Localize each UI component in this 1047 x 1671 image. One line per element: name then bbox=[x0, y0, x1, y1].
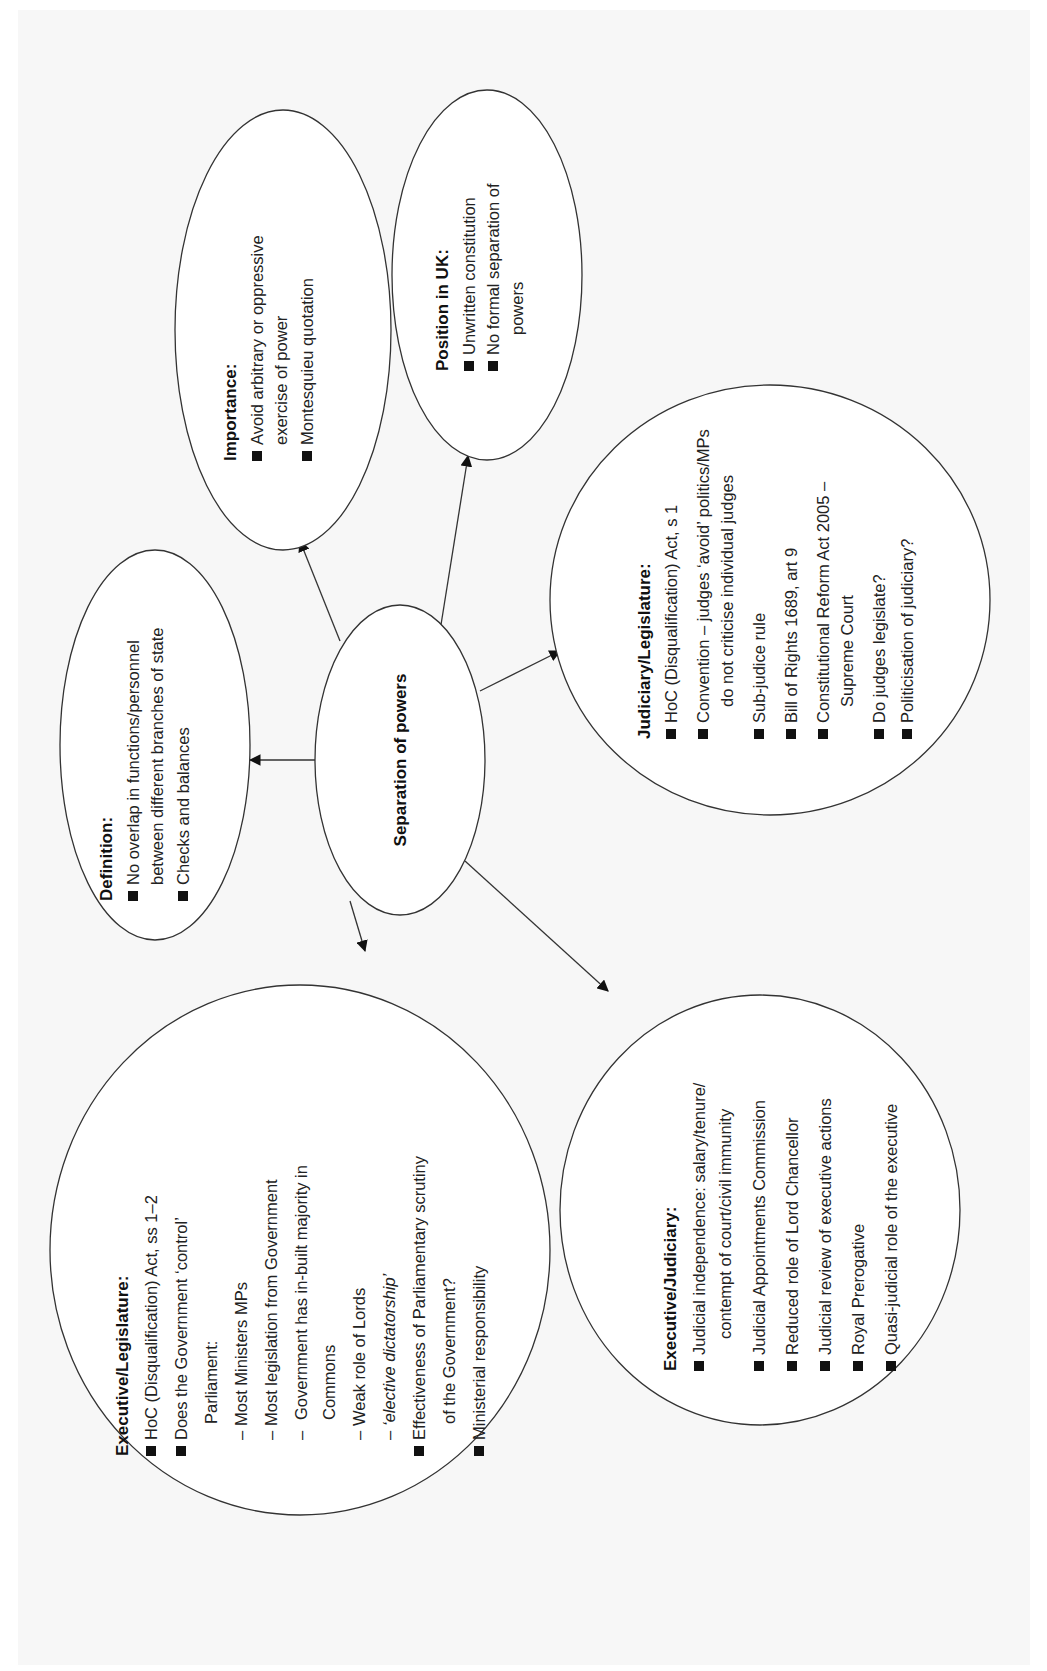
ej-item: Judicial review of executive actions bbox=[816, 1098, 834, 1355]
position-uk-item-cont: powers bbox=[508, 282, 526, 335]
el-item-cont: of the Government? bbox=[440, 1278, 458, 1424]
edge-to-executive-legislature bbox=[350, 901, 365, 951]
bullet-icon bbox=[128, 891, 138, 901]
ej-item: Judicial Appointments Commission bbox=[750, 1100, 768, 1355]
bullet-icon bbox=[464, 361, 474, 371]
executive-judiciary-title: Executive/Judiciary: bbox=[661, 1207, 680, 1371]
edge-to-judiciary-legislature bbox=[480, 651, 560, 691]
bullet-icon bbox=[252, 451, 262, 461]
el-subitem: Most Ministers MPs bbox=[232, 1282, 250, 1426]
node-center: Separation of powers bbox=[315, 605, 485, 915]
bullet-icon bbox=[786, 729, 796, 739]
jl-item: HoC (Disqualification) Act, s 1 bbox=[662, 505, 680, 723]
bullet-icon bbox=[146, 1446, 156, 1456]
importance-item: Montesquieu quotation bbox=[298, 278, 316, 445]
judiciary-legislature-title: Judiciary/Legislature: bbox=[635, 563, 654, 739]
node-definition: Definition: No overlap in functions/pers… bbox=[60, 550, 250, 940]
el-item-cont: Parliament: bbox=[202, 1341, 220, 1424]
dash-icon: – bbox=[380, 1430, 398, 1440]
position-uk-item: Unwritten constitution bbox=[460, 197, 478, 355]
node-executive-judiciary: Executive/Judiciary: Judicial independen… bbox=[560, 995, 960, 1425]
el-subitem: Weak role of Lords bbox=[350, 1288, 368, 1426]
el-subitem: Most legislation from Government bbox=[262, 1179, 280, 1426]
definition-title: Definition: bbox=[97, 817, 116, 901]
jl-item: Do judges legislate? bbox=[870, 574, 888, 723]
edge-to-executive-judiciary bbox=[465, 861, 608, 991]
edge-to-importance bbox=[300, 541, 340, 641]
mind-map-diagram: Definition: No overlap in functions/pers… bbox=[0, 0, 1047, 1671]
center-title: Separation of powers bbox=[391, 674, 410, 847]
bullet-icon bbox=[178, 891, 188, 901]
ej-item-cont: contempt of court/civil immunity bbox=[716, 1108, 734, 1339]
jl-item: Politicisation of judiciary? bbox=[898, 539, 916, 723]
definition-item: Checks and balances bbox=[174, 727, 192, 885]
dash-icon: – bbox=[350, 1430, 368, 1440]
bullet-icon bbox=[874, 729, 884, 739]
el-item: Effectiveness of Parliamentary scrutiny bbox=[410, 1155, 428, 1440]
el-item: Does the Government ‘control’ bbox=[172, 1217, 190, 1440]
importance-item-cont: exercise of power bbox=[272, 315, 290, 445]
bullet-icon bbox=[902, 729, 912, 739]
bullet-icon bbox=[853, 1361, 863, 1371]
ej-item: Reduced role of Lord Chancellor bbox=[783, 1117, 801, 1355]
jl-item: Convention – judges ‘avoid’ politics/MPs bbox=[694, 429, 712, 723]
el-subitem: ‘elective dictatorship’ bbox=[380, 1273, 398, 1426]
ej-item: Judicial independence: salary/tenure/ bbox=[690, 1082, 708, 1355]
el-item: Ministerial responsibility bbox=[470, 1265, 488, 1440]
dash-icon: – bbox=[292, 1430, 310, 1440]
definition-item-cont: between different branches of state bbox=[148, 628, 166, 885]
definition-item: No overlap in functions/personnel bbox=[124, 640, 142, 885]
jl-item: Bill of Rights 1689, art 9 bbox=[782, 548, 800, 723]
bullet-icon bbox=[818, 729, 828, 739]
node-executive-legislature: Executive/Legislature: HoC (Disqualifica… bbox=[50, 985, 550, 1515]
dash-icon: – bbox=[262, 1430, 280, 1440]
bullet-icon bbox=[666, 729, 676, 739]
jl-item-cont: do not criticise individual judges bbox=[718, 475, 736, 707]
bullet-icon bbox=[474, 1446, 484, 1456]
bullet-icon bbox=[787, 1361, 797, 1371]
bullet-icon bbox=[694, 1361, 704, 1371]
bullet-icon bbox=[414, 1446, 424, 1456]
bullet-icon bbox=[886, 1361, 896, 1371]
ej-item: Quasi-judicial role of the executive bbox=[882, 1104, 900, 1355]
node-importance: Importance: Avoid arbitrary or oppressiv… bbox=[175, 110, 391, 550]
jl-item-cont: Supreme Court bbox=[838, 595, 856, 707]
bullet-icon bbox=[754, 729, 764, 739]
position-uk-title: Position in UK: bbox=[433, 249, 452, 371]
bullet-icon bbox=[488, 361, 498, 371]
importance-item: Avoid arbitrary or oppressive bbox=[248, 235, 266, 445]
position-uk-item: No formal separation of bbox=[484, 183, 502, 355]
el-subitem-cont: Commons bbox=[320, 1345, 338, 1420]
edge-to-position-uk bbox=[440, 456, 468, 631]
node-judiciary-legislature: Judiciary/Legislature: HoC (Disqualifica… bbox=[550, 385, 990, 815]
dash-icon: – bbox=[232, 1430, 250, 1440]
executive-legislature-title: Executive/Legislature: bbox=[113, 1276, 132, 1456]
node-position-uk: Position in UK: Unwritten constitution N… bbox=[392, 90, 582, 460]
jl-item: Constitutional Reform Act 2005 – bbox=[814, 481, 832, 723]
el-item: HoC (Disqualification) Act, ss 1–2 bbox=[142, 1195, 160, 1440]
ej-item: Royal Prerogative bbox=[849, 1224, 867, 1355]
importance-title: Importance: bbox=[221, 364, 240, 461]
bullet-icon bbox=[820, 1361, 830, 1371]
bullet-icon bbox=[302, 451, 312, 461]
bullet-icon bbox=[754, 1361, 764, 1371]
jl-item: Sub-judice rule bbox=[750, 613, 768, 723]
el-subitem: Government has in-built majority in bbox=[292, 1165, 310, 1420]
bullet-icon bbox=[698, 729, 708, 739]
bullet-icon bbox=[176, 1446, 186, 1456]
